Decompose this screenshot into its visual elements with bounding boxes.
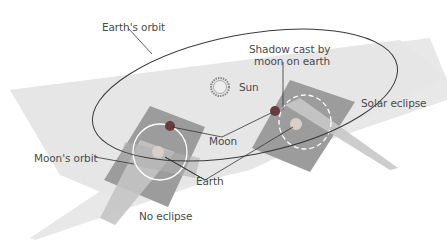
label-moons-orbit: Moon's orbit [34,152,98,164]
label-shadow-line1: Shadow cast by [249,43,330,55]
label-shadow-line2: moon on earth [254,55,330,67]
label-solar-eclipse: Solar eclipse [361,97,426,109]
diagram-canvas [0,0,447,240]
label-earths-orbit: Earth's orbit [102,21,165,33]
label-moon: Moon [209,135,237,147]
earth-right [290,118,302,130]
label-sun: Sun [239,81,259,93]
eclipse-diagram: Earth's orbit Shadow cast by moon on ear… [0,0,447,240]
label-no-eclipse: No eclipse [139,210,192,222]
label-earth: Earth [196,175,224,187]
moon-right [270,106,280,116]
moon-left [165,121,175,131]
earth-left [152,146,164,158]
